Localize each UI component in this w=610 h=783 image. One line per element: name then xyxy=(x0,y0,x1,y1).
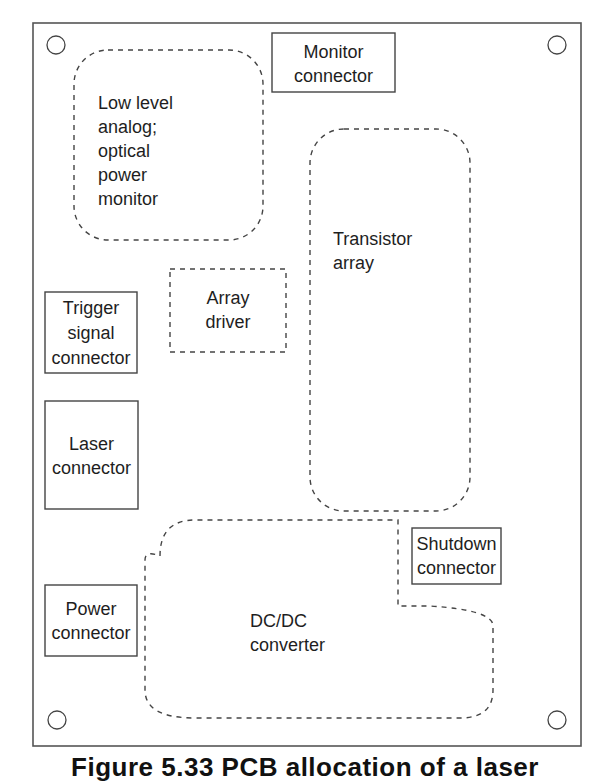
label-line: Transistor xyxy=(333,227,453,251)
label-line: driver xyxy=(170,310,286,334)
monitor-connector-label: Monitor connector xyxy=(272,40,395,88)
label-line: array xyxy=(333,251,453,275)
label-line: analog; xyxy=(98,115,248,139)
label-line: Array xyxy=(170,286,286,310)
label-line: DC/DC xyxy=(250,609,390,633)
trigger-signal-connector-label: Trigger signal connector xyxy=(45,296,137,371)
label-line: connector xyxy=(45,621,137,645)
label-line: monitor xyxy=(98,187,248,211)
transistor-array-region xyxy=(310,129,470,511)
array-driver-label: Array driver xyxy=(170,286,286,334)
label-line: signal xyxy=(45,321,137,346)
mounting-hole-bottom-left xyxy=(48,711,66,729)
label-line: Low level xyxy=(98,91,248,115)
label-line: Shutdown xyxy=(412,532,501,556)
label-line: Monitor xyxy=(272,40,395,64)
label-line: connector xyxy=(45,456,138,480)
figure-caption: Figure 5.33 PCB allocation of a laser xyxy=(0,752,610,783)
label-line: connector xyxy=(412,556,501,580)
label-line: Power xyxy=(45,597,137,621)
label-line: optical xyxy=(98,139,248,163)
power-connector-label: Power connector xyxy=(45,597,137,645)
label-line: Trigger xyxy=(45,296,137,321)
mounting-hole-top-right xyxy=(548,36,566,54)
label-line: converter xyxy=(250,633,390,657)
label-line: Laser xyxy=(45,432,138,456)
mounting-hole-bottom-right xyxy=(548,711,566,729)
mounting-hole-top-left xyxy=(47,36,65,54)
low-level-analog-label: Low level analog; optical power monitor xyxy=(98,91,248,211)
laser-connector-label: Laser connector xyxy=(45,432,138,480)
transistor-array-label: Transistor array xyxy=(333,227,453,275)
label-line: connector xyxy=(45,346,137,371)
dcdc-converter-label: DC/DC converter xyxy=(250,609,390,657)
label-line: power xyxy=(98,163,248,187)
shutdown-connector-label: Shutdown connector xyxy=(412,532,501,580)
label-line: connector xyxy=(272,64,395,88)
